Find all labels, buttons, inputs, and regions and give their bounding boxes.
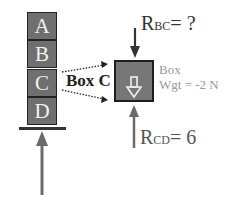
force-cd-subscript: CD	[153, 133, 170, 147]
force-bc-subscript: BC	[154, 19, 170, 33]
weight-arrow-icon	[127, 77, 141, 97]
force-bc-label: RBC= ?	[141, 12, 196, 35]
force-cd-value: = 6	[170, 126, 196, 148]
weight-line-2: Wgt = -2 N	[159, 77, 219, 92]
force-bc-symbol: R	[141, 12, 154, 34]
box-c-label: Box C	[66, 71, 111, 91]
weight-label: Box Wgt = -2 N	[159, 62, 219, 92]
weight-arrow-layer	[0, 0, 239, 204]
force-cd-symbol: R	[140, 126, 153, 148]
force-bc-value: = ?	[170, 12, 195, 34]
weight-line-1: Box	[159, 62, 219, 77]
force-cd-label: RCD= 6	[140, 126, 196, 149]
